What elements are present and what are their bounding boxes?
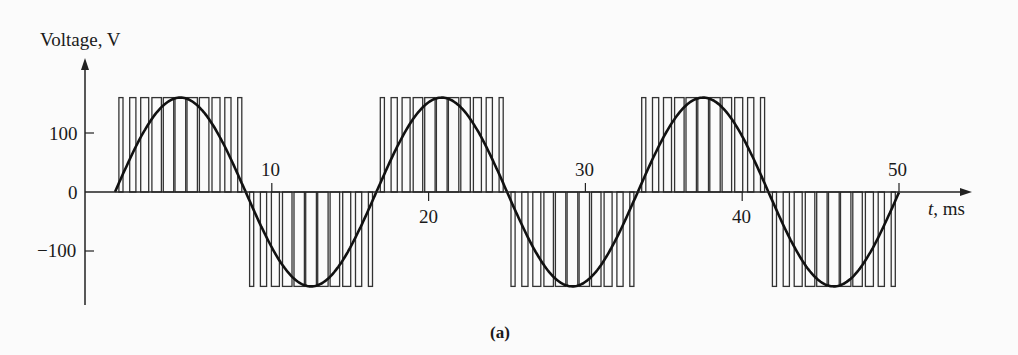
x-tick-40: 40 [732, 207, 751, 226]
pwm-pulse [555, 192, 565, 286]
pwm-pulse [425, 98, 435, 192]
y-axis-arrow-icon [81, 58, 89, 70]
pwm-pulse [356, 192, 362, 286]
x-tick-30: 30 [575, 160, 594, 179]
figure-caption: (a) [490, 324, 510, 341]
pwm-pulse [391, 98, 397, 192]
pwm-pulse [187, 98, 197, 192]
pwm-pulse [617, 192, 623, 286]
pwm-pulse [604, 192, 612, 286]
pwm-pulse [567, 192, 578, 286]
pwm-pulse [175, 98, 186, 192]
pwm-pulse [878, 192, 884, 286]
pwm-pulse [533, 192, 541, 286]
x-tick-50: 50 [888, 160, 907, 179]
pwm-pulse [225, 98, 231, 192]
x-tick-10: 10 [261, 160, 280, 179]
y-tick-0: 0 [68, 183, 78, 202]
y-tick-minus-100: −100 [37, 241, 76, 260]
y-axis-title: Voltage, V [40, 30, 121, 49]
pwm-pulse [212, 98, 220, 192]
pwm-pulse [436, 98, 447, 192]
pwm-pulse [141, 98, 149, 192]
x-axis-title: t, ms [928, 199, 965, 218]
pwm-pulse [841, 192, 851, 286]
pwm-pulse [448, 98, 458, 192]
x-axis-unit: , ms [933, 198, 965, 219]
y-tick-100: 100 [49, 124, 78, 143]
pwm-pulse [794, 192, 802, 286]
pwm-pulse [318, 192, 328, 286]
pwm-pulse [271, 192, 279, 286]
pwm-pulse [735, 98, 743, 192]
pwm-pulse [698, 98, 709, 192]
pwm-pulse [817, 192, 827, 286]
pwm-pulse [522, 192, 528, 286]
pwm-pulse [664, 98, 672, 192]
pwm-pulse [865, 192, 873, 286]
pwm-pulse [163, 98, 173, 192]
pwm-pulse [343, 192, 351, 286]
pwm-pulse [783, 192, 789, 286]
pwm-pulse [130, 98, 136, 192]
x-axis-arrow-icon [960, 188, 972, 196]
x-tick-20: 20 [419, 207, 438, 226]
pwm-voltage-chart [0, 0, 1018, 355]
pwm-pulse [294, 192, 304, 286]
pwm-pulse [829, 192, 840, 286]
pwm-pulse [579, 192, 589, 286]
pwm-pulse [710, 98, 720, 192]
pwm-pulse [473, 98, 481, 192]
pwm-pulse [260, 192, 266, 286]
pwm-pulse [486, 98, 492, 192]
pwm-pulse [402, 98, 410, 192]
pwm-pulse [653, 98, 659, 192]
pwm-pulse [306, 192, 317, 286]
pwm-pulse [748, 98, 754, 192]
pwm-pulse [686, 98, 696, 192]
